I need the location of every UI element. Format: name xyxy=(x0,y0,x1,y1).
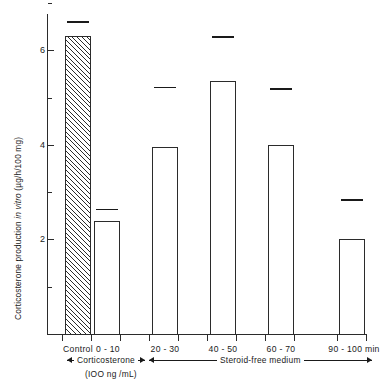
x-tick-6 xyxy=(236,335,237,341)
y-tick-label-2: 2 xyxy=(40,235,45,244)
bar-60-70 xyxy=(268,145,294,334)
x-tick-10 xyxy=(366,335,367,341)
error-cap-60-70 xyxy=(270,88,292,90)
right-arrow-icon xyxy=(138,360,145,361)
y-axis-label: Corticosterone production in vitro (µg/h… xyxy=(13,137,23,320)
y-axis-label-prefix: Corticosterone production xyxy=(13,219,23,320)
bar-control xyxy=(65,36,91,334)
y-tick-major-6: 6 xyxy=(48,50,54,51)
y-tick-minor-5 xyxy=(48,98,52,99)
error-cap-20-30 xyxy=(154,87,176,89)
x-tick-2 xyxy=(120,335,121,341)
x-tick-label-control: Control xyxy=(63,344,93,354)
right-arrow-icon-2 xyxy=(304,360,372,361)
y-tick-minor-1 xyxy=(48,287,52,288)
x-tick-0 xyxy=(62,335,63,341)
corticosterone-span: Corticosterone xyxy=(67,355,145,365)
y-tick-major-2: 2 xyxy=(48,239,54,240)
x-tick-label-20-30: 20 - 30 xyxy=(151,344,180,354)
left-arrow-icon xyxy=(67,360,74,361)
bar-20-30 xyxy=(152,147,178,334)
x-tick-1 xyxy=(91,335,92,341)
error-cap-control xyxy=(67,21,89,23)
y-tick-minor-3 xyxy=(48,192,52,193)
bar-0-10 xyxy=(94,221,120,335)
bar-40-50 xyxy=(210,81,236,334)
corticosterone-concentration: (IOO ng /mL) xyxy=(85,369,137,379)
x-tick-label-90-100: 90 - 100 min xyxy=(328,344,379,354)
error-cap-0-10 xyxy=(96,209,118,211)
x-tick-5 xyxy=(207,335,208,341)
y-tick-label-4: 4 xyxy=(40,140,45,149)
left-arrow-icon-2 xyxy=(149,360,217,361)
treatment-annotation-group: Corticosterone (IOO ng /mL) Steroid-free… xyxy=(47,355,367,391)
y-tick-minor-7 xyxy=(48,3,52,4)
x-tick-3 xyxy=(149,335,150,341)
bar-90-100 xyxy=(339,239,365,334)
x-tick-8 xyxy=(294,335,295,341)
corticosterone-label: Corticosterone xyxy=(74,355,138,365)
steroid-free-medium-label: Steroid-free medium xyxy=(217,355,304,365)
plot-area: 6 4 2 xyxy=(47,14,367,335)
error-cap-90-100 xyxy=(341,199,363,201)
y-axis-label-italic: in vitro xyxy=(13,193,23,219)
x-tick-7 xyxy=(265,335,266,341)
error-cap-40-50 xyxy=(212,36,234,38)
y-tick-label-6: 6 xyxy=(40,46,45,55)
y-axis-label-suffix: (µg/h/100 mg) xyxy=(13,137,23,193)
x-tick-9 xyxy=(337,335,338,341)
x-tick-label-60-70: 60 - 70 xyxy=(267,344,296,354)
y-tick-major-4: 4 xyxy=(48,145,54,146)
x-tick-4 xyxy=(178,335,179,341)
x-tick-label-0-10: 0 - 10 xyxy=(96,344,120,354)
y-axis-label-container: Corticosterone production in vitro (µg/h… xyxy=(0,0,20,340)
steroid-free-medium-span: Steroid-free medium xyxy=(149,355,372,365)
x-tick-label-40-50: 40 - 50 xyxy=(209,344,238,354)
